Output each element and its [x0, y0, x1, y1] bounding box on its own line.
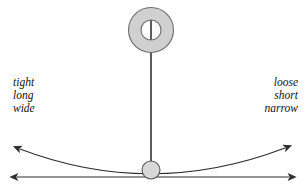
- torus-outer-circle: [129, 8, 174, 53]
- torus-bob: [129, 8, 174, 53]
- right-label-group: loose short narrow: [265, 76, 298, 116]
- right-label-loose: loose: [265, 76, 298, 89]
- left-label-group: tight long wide: [13, 76, 35, 116]
- pendulum-bob: [142, 161, 160, 179]
- left-label-long: long: [13, 89, 35, 102]
- diagram-canvas: tight long wide loose short narrow: [0, 0, 306, 193]
- left-label-tight: tight: [13, 76, 35, 89]
- right-label-narrow: narrow: [265, 102, 298, 115]
- left-label-wide: wide: [13, 102, 35, 115]
- right-label-short: short: [265, 89, 298, 102]
- pendulum-diagram-svg: [0, 0, 306, 193]
